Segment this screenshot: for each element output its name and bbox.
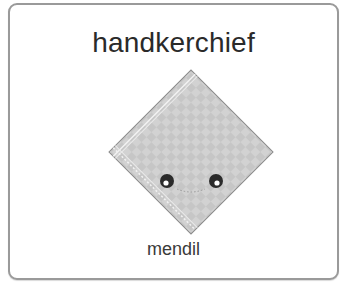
- handkerchief-icon: [107, 68, 275, 236]
- card-title: handkerchief: [10, 27, 337, 59]
- card-translation: mendil: [10, 239, 337, 260]
- flashcard[interactable]: handkerchief: [8, 3, 339, 280]
